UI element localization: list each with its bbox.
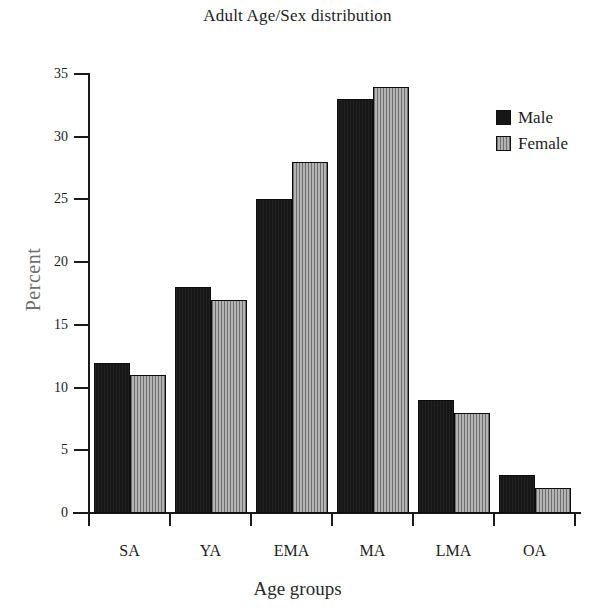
bar-ma-male [337,99,373,513]
x-axis-tick [574,513,576,526]
legend-swatch-icon [496,136,511,151]
legend-item-male: Male [496,104,568,130]
legend-item-female: Female [496,130,568,156]
x-axis-tick [412,513,414,526]
y-axis-tick [74,324,88,326]
x-axis-tick-label: LMA [413,543,494,559]
y-axis-tick [74,261,88,263]
bar-ma-female [373,87,409,513]
y-axis-tick [74,449,88,451]
x-axis-tick [169,513,171,526]
bar-sa-female [130,375,166,513]
x-axis-tick [250,513,252,526]
bar-ema-female [292,162,328,513]
x-axis-tick-label: OA [494,543,575,559]
bar-ema-male [256,199,292,513]
y-axis-tick-label: 5 [30,443,68,457]
legend-label: Female [518,135,568,152]
y-axis-tick-label: 35 [30,67,68,81]
y-axis-tick [74,387,88,389]
legend-swatch-icon [496,110,511,125]
bar-lma-female [454,413,490,513]
y-axis-tick [74,198,88,200]
y-axis-tick [74,73,88,75]
x-axis-tick [493,513,495,526]
x-axis-tick [331,513,333,526]
y-axis-tick [74,512,88,514]
bar-lma-male [418,400,454,513]
legend-label: Male [518,109,553,126]
y-axis-title: Percent [22,220,45,340]
y-axis-tick-label: 30 [30,130,68,144]
y-axis-tick-label: 25 [30,192,68,206]
x-axis-tick-label: EMA [251,543,332,559]
x-axis-tick [88,513,90,526]
chart-title: Adult Age/Sex distribution [0,6,595,26]
x-axis-tick-label: YA [170,543,251,559]
bar-ya-female [211,300,247,513]
bar-ya-male [175,287,211,513]
x-axis-tick-label: MA [332,543,413,559]
y-axis-tick-label: 10 [30,381,68,395]
legend: MaleFemale [496,104,568,156]
bar-oa-female [535,488,571,513]
x-axis-title: Age groups [0,578,595,600]
y-axis-tick [74,136,88,138]
bar-sa-male [94,363,130,514]
y-axis-tick-label: 0 [30,506,68,520]
bar-oa-male [499,475,535,513]
x-axis-tick-label: SA [89,543,170,559]
